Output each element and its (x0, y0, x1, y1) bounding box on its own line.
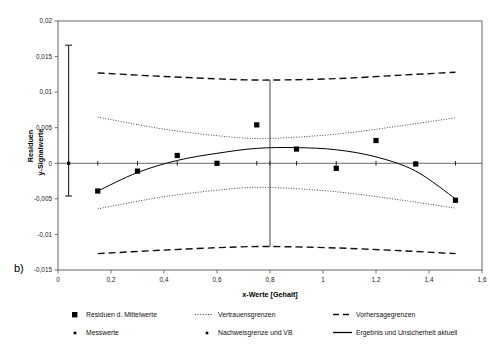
residual-marker (453, 198, 458, 203)
y-tick-label: -0,015 (34, 266, 53, 273)
figure-root: 00,20,40,60,811,21,41,6 -0,015-0,01-0,00… (0, 0, 490, 351)
y-tick-label: 0,015 (36, 53, 52, 60)
y-tick-label: 0 (48, 160, 52, 167)
legend-entry: Messwerte (74, 329, 119, 336)
legend-label: Nachweisgrenze und VB (218, 329, 293, 337)
y-tick-label: 0,01 (40, 88, 53, 95)
x-tick-label: 0 (56, 276, 60, 283)
residual-marker (294, 146, 299, 151)
legend-label: Residuen d. Mittelwerte (86, 311, 157, 318)
x-tick-label: 1 (321, 276, 325, 283)
x-tick-label: 1,6 (478, 276, 487, 283)
residual-marker (214, 161, 219, 166)
residual-marker (373, 138, 378, 143)
legend-label: Messwerte (86, 329, 119, 336)
legend-entry: Nachweisgrenze und VB (206, 329, 293, 337)
x-tick-label: 1,4 (425, 276, 434, 283)
residual-marker (254, 122, 259, 127)
residual-plot-figure: 00,20,40,60,811,21,41,6 -0,015-0,01-0,00… (0, 0, 490, 351)
y-tick-label: 0,02 (40, 17, 53, 24)
x-tick-label: 0,2 (107, 276, 116, 283)
legend-square-marker (72, 312, 77, 317)
x-axis-ticks: 00,20,40,60,811,21,41,6 (56, 270, 487, 283)
residual-marker (95, 188, 100, 193)
panel-label: b) (14, 262, 24, 274)
x-axis-title: x-Werte [Gehalt] (242, 290, 297, 299)
legend-label: Vorhersagegrenzen (356, 311, 416, 319)
legend-dot-marker (206, 332, 209, 335)
residual-marker (135, 169, 140, 174)
x-tick-label: 0,8 (266, 276, 275, 283)
x-tick-label: 0,4 (160, 276, 169, 283)
legend-label: Vertrauensgrenzen (218, 311, 276, 319)
residual-marker (413, 161, 418, 166)
legend-entry: Vertrauensgrenzen (195, 311, 276, 319)
x-tick-label: 0,6 (213, 276, 222, 283)
residual-marker (334, 166, 339, 171)
legend-entry: Vorhersagegrenzen (333, 311, 416, 319)
legend-label: Ergebnis und Unsicherheit aktuell (356, 329, 458, 337)
chart-canvas: 00,20,40,60,811,21,41,6 -0,015-0,01-0,00… (0, 0, 490, 351)
residual-marker (175, 153, 180, 158)
y-axis-title-line1: Residuen (26, 130, 35, 162)
y-axis-title-line2: y-Signalwerte (36, 129, 45, 176)
x-tick-label: 1,2 (372, 276, 381, 283)
legend-entry: Residuen d. Mittelwerte (72, 311, 157, 318)
chart-legend: Residuen d. MittelwerteVertrauensgrenzen… (72, 311, 458, 337)
y-tick-label: -0,005 (34, 195, 53, 202)
legend-dot-marker (74, 332, 77, 335)
legend-entry: Ergebnis und Unsicherheit aktuell (333, 329, 458, 337)
y-tick-label: -0,01 (37, 231, 52, 238)
